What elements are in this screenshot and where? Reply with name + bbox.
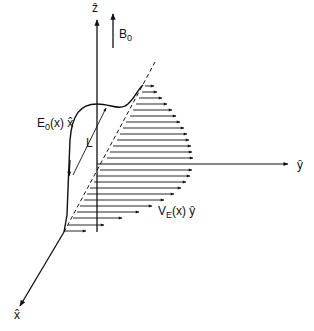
diagram-canvas [0,0,314,331]
x-axis-label: x̂ [14,309,20,321]
ve-rest: (x) ŷ [172,204,195,218]
e0-rest: (x) x̂ [50,116,73,130]
b0-main: B [119,27,127,41]
ve-main: V [158,204,166,218]
length-label: L [86,137,93,149]
e0-label: E0(x) x̂ [37,117,73,132]
e0-main: E [37,116,45,130]
y-axis-label: ŷ [297,159,303,171]
ve-label: VE(x) ŷ [158,205,195,220]
b0-label: B0 [119,28,132,43]
x-axis [20,232,64,306]
z-axis-label: ẑ [92,2,98,14]
b0-sub: 0 [127,33,132,43]
